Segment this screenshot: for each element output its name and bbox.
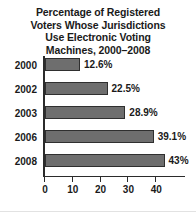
chart-title: Percentage of Registered Voters Whose Ju… (8, 6, 188, 56)
bar-value-2003: 28.9% (129, 107, 157, 118)
bar-value-2002: 22.5% (112, 83, 140, 94)
plot-area: 2000 12.6% 2002 22.5% 2003 28.9% 2006 39… (0, 56, 196, 212)
bar-2002 (45, 82, 108, 95)
category-label-2006: 2006 (0, 132, 37, 143)
chart-title-line-3: Use Electronic Voting (8, 31, 188, 44)
bar-value-2008: 43% (169, 155, 189, 166)
x-tick-label-0: 0 (32, 184, 58, 195)
x-tick-label-20: 20 (88, 184, 114, 195)
bar-row: 2000 12.6% (0, 56, 196, 80)
x-tick-label-40: 40 (143, 184, 169, 195)
x-tick-0 (44, 177, 45, 182)
chart-title-line-1: Percentage of Registered (8, 6, 188, 19)
bar-row: 2003 28.9% (0, 104, 196, 128)
bar-row: 2008 43% (0, 152, 196, 176)
chart-title-line-4: Machines, 2000–2008 (8, 44, 188, 57)
x-tick-label-10: 10 (60, 184, 86, 195)
x-tick-30 (127, 177, 128, 182)
category-label-2003: 2003 (0, 108, 37, 119)
x-tick-40 (155, 177, 156, 182)
x-tick-20 (100, 177, 101, 182)
bar-row: 2002 22.5% (0, 80, 196, 104)
category-label-2000: 2000 (0, 60, 37, 71)
x-tick-10 (72, 177, 73, 182)
bar-value-2000: 12.6% (84, 59, 112, 70)
bar-2000 (45, 58, 80, 71)
category-label-2008: 2008 (0, 156, 37, 167)
bar-row: 2006 39.1% (0, 128, 196, 152)
chart-figure: Percentage of Registered Voters Whose Ju… (0, 0, 196, 212)
x-tick-label-30: 30 (115, 184, 141, 195)
chart-title-line-2: Voters Whose Jurisdictions (8, 19, 188, 32)
bar-2003 (45, 106, 125, 119)
bar-2008 (45, 154, 165, 167)
bar-value-2006: 39.1% (158, 131, 186, 142)
x-axis-line (43, 176, 185, 177)
category-label-2002: 2002 (0, 84, 37, 95)
bar-2006 (45, 130, 154, 143)
